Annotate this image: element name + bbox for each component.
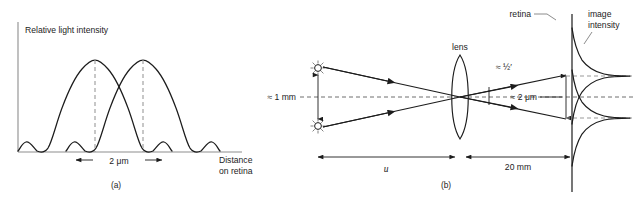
image-intensity-label-line1: image xyxy=(588,9,612,19)
panel-a-x-axis-label-line2: on retina xyxy=(219,166,253,176)
object-size-label: ≈ 1 mm xyxy=(267,92,296,102)
retina-label: retina xyxy=(510,9,532,19)
angle-label: ≈ ½′ xyxy=(496,62,512,72)
panel-a-x-axis-label-line1: Distance xyxy=(219,155,253,165)
panel-b-group: retina image intensity xyxy=(267,9,636,192)
retina-leader-line xyxy=(534,14,556,20)
light-source-lower xyxy=(311,119,326,134)
lens-label: lens xyxy=(452,42,468,52)
light-source-upper xyxy=(311,61,326,76)
optics-figure: Relative light intensity 2 μm Distance o… xyxy=(0,0,636,199)
image-intensity-label-line2: intensity xyxy=(588,20,620,30)
figure-canvas: Relative light intensity 2 μm Distance o… xyxy=(0,0,636,199)
source-lower-circle xyxy=(315,123,322,130)
separation-label: 2 μm xyxy=(109,156,128,166)
object-distance-label: u xyxy=(384,164,389,174)
image-intensity-leader-line xyxy=(584,32,592,44)
panel-a-tag: (a) xyxy=(111,180,121,190)
panel-b-tag: (b) xyxy=(441,180,451,190)
ray-lower-arrowhead xyxy=(323,112,392,127)
ray-upper-arrowhead xyxy=(323,67,392,82)
source-upper-circle xyxy=(315,65,322,72)
panel-a-y-axis-label: Relative light intensity xyxy=(25,25,109,35)
image-size-label: ≈ 2 μm xyxy=(511,92,537,102)
panel-a-group: Relative light intensity 2 μm Distance o… xyxy=(18,22,253,190)
image-distance-label: 20 mm xyxy=(505,162,531,172)
